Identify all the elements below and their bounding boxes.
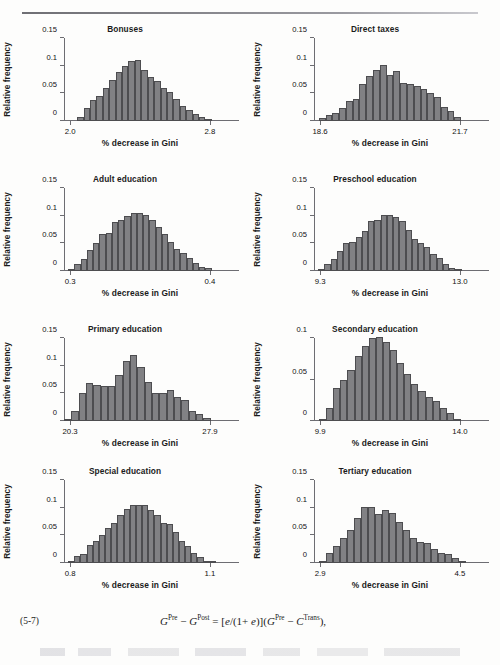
y-axis-label: Relative frequency (0, 38, 14, 121)
x-tick-label: 18.6 (312, 127, 327, 136)
y-axis-label: Relative frequency (0, 338, 14, 421)
histogram-bar (86, 383, 93, 421)
histogram-bar (79, 393, 86, 421)
histogram-bar (205, 119, 211, 121)
x-tick-label: 0.4 (204, 277, 215, 286)
histogram-panel: Secondary educationRelative frequency00.… (250, 320, 500, 462)
histogram-bar (339, 108, 346, 121)
histogram-bar (373, 70, 380, 121)
bar-series (314, 188, 466, 271)
y-axis-label-text: Relative frequency (3, 342, 12, 417)
y-axis-label: Relative frequency (250, 188, 264, 271)
y-tick-label: 0.15 (42, 467, 57, 476)
histogram-bar (123, 361, 130, 421)
histogram-bar (414, 86, 421, 121)
y-tick-label: 0.05 (42, 380, 57, 389)
histogram-bar (390, 350, 397, 421)
x-tick-label: 2.0 (65, 127, 76, 136)
histogram-bar (433, 401, 440, 421)
histogram-bar (145, 382, 152, 421)
histogram-bar (167, 390, 174, 421)
histogram-bar (387, 75, 394, 121)
x-tick (460, 271, 461, 275)
x-axis-label: % decrease in Gini (290, 288, 490, 298)
histogram-bar (64, 419, 71, 421)
histogram-bar (441, 107, 448, 121)
x-tick-label: 21.7 (452, 127, 467, 136)
panel-title: Primary education (0, 324, 250, 334)
x-tick (70, 563, 71, 567)
plot-area: 00.050.10.152.94.5 (314, 480, 466, 563)
plot-area: 00.050.10.159.313.0 (314, 188, 466, 271)
header-rule (22, 12, 478, 14)
page-bleed-text (40, 648, 460, 656)
histogram-bar (152, 393, 159, 421)
panel-title: Secondary education (250, 324, 500, 334)
histogram-bar (418, 391, 425, 421)
y-tick-label: 0.1 (46, 52, 57, 61)
histogram-bar (354, 518, 361, 563)
x-tick (320, 121, 321, 125)
bar-series (314, 38, 466, 121)
histogram-bar (376, 337, 383, 421)
y-axis-label: Relative frequency (0, 188, 14, 271)
histogram-bar (366, 76, 373, 121)
y-axis-label: Relative frequency (250, 38, 264, 121)
x-tick (70, 271, 71, 275)
histogram-bar (361, 507, 368, 563)
y-tick-label: 0.05 (292, 522, 307, 531)
histogram-bar (326, 408, 333, 421)
plot-area: 00.050.10.152.02.8 (64, 38, 216, 121)
y-tick-label: 0.15 (292, 25, 307, 34)
x-tick-label: 27.9 (202, 427, 217, 436)
histogram-bar (355, 356, 362, 421)
histogram-panel: Tertiary educationRelative frequency00.0… (250, 462, 500, 600)
histogram-panel: BonusesRelative frequency00.050.10.152.0… (0, 20, 250, 170)
histogram-bar (445, 554, 452, 563)
histogram-bar (347, 370, 354, 421)
plot-area: 00.050.10.150.81.1 (64, 480, 216, 563)
x-tick-label: 0.3 (65, 277, 76, 286)
histogram-bar (380, 65, 387, 121)
x-axis-label: % decrease in Gini (290, 580, 490, 590)
y-axis-label-text: Relative frequency (253, 192, 262, 267)
x-tick (320, 421, 321, 425)
x-tick (70, 121, 71, 125)
x-tick-label: 4.5 (454, 569, 465, 578)
panel-title: Adult education (0, 174, 250, 184)
x-tick-label: 0.8 (65, 569, 76, 578)
x-axis-label: % decrease in Gini (290, 438, 490, 448)
histogram-bar (203, 418, 210, 421)
y-tick-label: 0.05 (292, 366, 307, 375)
histogram-bar (181, 400, 188, 421)
histogram-bar (368, 507, 375, 563)
histogram-bar (438, 553, 445, 563)
y-tick-label: 0.15 (42, 175, 57, 184)
y-tick-label: 0 (53, 550, 57, 559)
y-axis-label-text: Relative frequency (3, 42, 12, 117)
y-tick-label: 0.15 (42, 25, 57, 34)
y-tick-label: 0.1 (296, 202, 307, 211)
histogram-panel: Special educationRelative frequency00.05… (0, 462, 250, 600)
panel-title: Direct taxes (250, 24, 500, 34)
x-tick-label: 13.0 (452, 277, 467, 286)
x-axis-label: % decrease in Gini (40, 580, 240, 590)
histogram-bar (396, 522, 403, 563)
histogram-bar (359, 84, 366, 121)
histogram-bar (407, 84, 414, 121)
equation-body: GPre − GPost = [e/(1+ e)](GPre − CTrans)… (160, 614, 326, 627)
x-tick (320, 271, 321, 275)
y-axis-label: Relative frequency (0, 480, 14, 563)
histogram-bar (454, 117, 461, 121)
histogram-bar (404, 374, 411, 421)
histogram-bar (362, 346, 369, 421)
histogram-bar (427, 93, 434, 121)
panel-title: Bonuses (0, 24, 250, 34)
x-tick-label: 9.3 (315, 277, 326, 286)
histogram-bar (400, 83, 407, 121)
panel-title: Preschool education (250, 174, 500, 184)
panel-title: Special education (0, 466, 250, 476)
histogram-bar (319, 419, 326, 421)
histogram-bar (319, 561, 326, 563)
y-tick-label: 0 (53, 408, 57, 417)
